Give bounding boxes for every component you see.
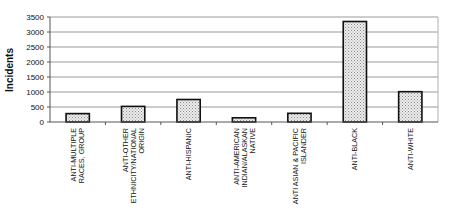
category-label: ANTI-AMERICANINDIAN/ALASKANNATIVE (232, 128, 257, 188)
category-label-line: ANTI-HISPANIC (184, 128, 193, 180)
y-tick-label: 2000 (26, 58, 44, 67)
category-label: ANTI-BLACK (350, 128, 359, 171)
category-label-line: ISLANDER (299, 128, 308, 164)
category-label: ANTI-WHITE (406, 128, 415, 170)
y-axis-label: Incidents (4, 48, 15, 92)
bar (288, 113, 311, 122)
y-tick-label: 1500 (26, 73, 44, 82)
y-tick-label: 3500 (26, 13, 44, 22)
category-label-line: NATIVE (248, 128, 257, 154)
category-label: ANTI-HISPANIC (184, 128, 193, 180)
bar (232, 118, 255, 122)
y-tick-label: 500 (31, 103, 45, 112)
category-label-line: RACES, GROUP (77, 128, 86, 183)
category-label-line: ANTI-WHITE (406, 128, 415, 170)
y-tick-label: 0 (40, 118, 45, 127)
y-tick-label: 1000 (26, 88, 44, 97)
category-label: ANTI ASIAN & PACIFICISLANDER (291, 128, 308, 204)
category-label-line: ANTI-BLACK (350, 128, 359, 171)
gridlines (47, 17, 438, 122)
bar (122, 106, 145, 122)
category-label: ANTI-OTHERETHNICITY/NATIONALORIGIN (121, 128, 146, 203)
category-labels: ANTI-MULTIPLERACES, GROUPANTI-OTHERETHNI… (69, 128, 415, 204)
bar (399, 92, 422, 122)
y-tick-labels: 0500100015002000250030003500 (26, 13, 44, 127)
category-label: ANTI-MULTIPLERACES, GROUP (69, 128, 86, 183)
bar-chart: 0500100015002000250030003500 ANTI-MULTIP… (0, 0, 450, 223)
y-tick-label: 3000 (26, 28, 44, 37)
category-label-line: ORIGIN (137, 128, 146, 154)
bar (177, 100, 200, 123)
axes (50, 17, 438, 125)
bar (343, 22, 366, 123)
y-tick-label: 2500 (26, 43, 44, 52)
bar (66, 114, 89, 122)
